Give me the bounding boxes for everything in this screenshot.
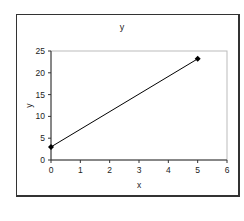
y-tick-label: 15 [36,90,46,100]
x-tick-label: 0 [49,165,54,175]
chart-plot: 05101520250123456xy [0,0,244,221]
x-tick-label: 2 [107,165,112,175]
x-tick-label: 4 [166,165,171,175]
y-axis-label: y [24,103,34,108]
y-tick-label: 20 [36,68,46,78]
y-tick-label: 0 [40,155,45,165]
x-tick-label: 6 [225,165,230,175]
plot-area [51,51,227,160]
series-line [51,59,198,147]
x-tick-label: 3 [137,165,142,175]
data-point-marker [48,144,54,150]
x-tick-label: 5 [195,165,200,175]
y-tick-label: 25 [36,46,46,56]
y-tick-label: 5 [40,133,45,143]
x-axis-label: x [137,180,142,190]
data-point-marker [195,56,201,62]
y-tick-label: 10 [36,111,46,121]
x-tick-label: 1 [78,165,83,175]
